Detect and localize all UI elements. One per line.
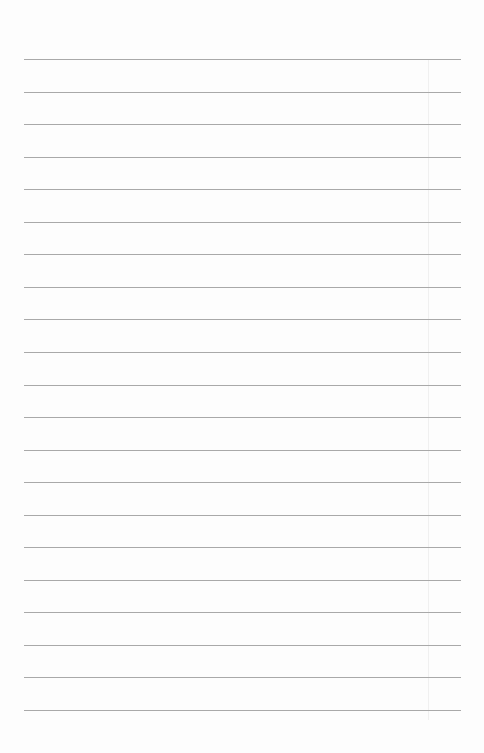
ruled-line bbox=[24, 580, 461, 581]
ruled-line bbox=[24, 450, 461, 451]
ruled-line bbox=[24, 287, 461, 288]
ruled-line bbox=[24, 124, 461, 125]
ruled-line bbox=[24, 677, 461, 678]
faint-vertical-mark bbox=[428, 60, 429, 720]
ruled-line bbox=[24, 352, 461, 353]
lined-paper-page bbox=[0, 0, 484, 753]
ruled-line bbox=[24, 157, 461, 158]
ruled-line bbox=[24, 710, 461, 711]
ruled-line bbox=[24, 189, 461, 190]
ruled-line bbox=[24, 254, 461, 255]
ruled-line bbox=[24, 222, 461, 223]
ruled-line bbox=[24, 482, 461, 483]
ruled-line bbox=[24, 59, 461, 60]
ruled-line bbox=[24, 92, 461, 93]
ruled-line bbox=[24, 319, 461, 320]
ruled-line bbox=[24, 385, 461, 386]
ruled-line bbox=[24, 417, 461, 418]
ruled-line bbox=[24, 515, 461, 516]
ruled-line bbox=[24, 612, 461, 613]
ruled-line bbox=[24, 547, 461, 548]
ruled-line bbox=[24, 645, 461, 646]
